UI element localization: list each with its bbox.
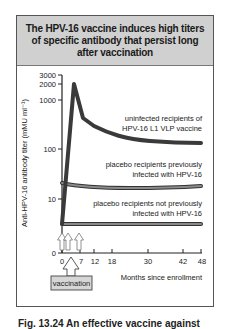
- y-tick-label-1000: 1000: [39, 96, 56, 105]
- series-vaccine-label-line1: uninfected recipients of: [125, 114, 203, 123]
- dose-arrow-icon: [58, 233, 67, 250]
- vaccination-dose-arrows: [58, 233, 84, 250]
- series-placebo-infected-label-line2: infected with HPV-16: [132, 170, 202, 179]
- dose-arrow-icon: [64, 233, 73, 250]
- y-tick-label-10: 10: [48, 195, 56, 204]
- x-tick-label-42: 42: [179, 257, 187, 266]
- series-placebo-uninfected-label-line1: placebo recipients not previously: [93, 199, 202, 208]
- series-placebo-uninfected-label-line2: infected with HPV-16: [132, 209, 202, 218]
- x-tick-label-7: 7: [79, 257, 83, 266]
- x-tick-label-12: 12: [91, 257, 99, 266]
- figure-caption: Fig. 13.24 An effective vaccine against: [18, 318, 200, 329]
- series-vaccine-label-line2: HPV-16 L1 VLP vaccine: [122, 124, 202, 133]
- y-tick-label-3000: 3000: [39, 71, 56, 80]
- x-tick-label-48: 48: [198, 257, 206, 266]
- x-axis-label: Months since enrollment: [121, 273, 203, 282]
- y-tick-label-2000: 2000: [39, 80, 56, 89]
- x-tick-label-0: 0: [60, 257, 64, 266]
- x-tick-label-30: 30: [144, 257, 152, 266]
- y-axis-label: Anti-HPV-16 antibody titer (mMU ml⁻¹): [20, 99, 29, 227]
- x-tick-label-18: 18: [108, 257, 116, 266]
- vaccination-label: vaccination: [53, 279, 91, 288]
- y-tick-label-0: 0: [52, 249, 56, 258]
- y-tick-label-100: 100: [43, 145, 56, 154]
- series-placebo-infected-label-line1: placebo recipients previously: [106, 160, 203, 169]
- dose-arrow-icon: [75, 233, 84, 250]
- vaccination-arrow-icon: [63, 257, 79, 276]
